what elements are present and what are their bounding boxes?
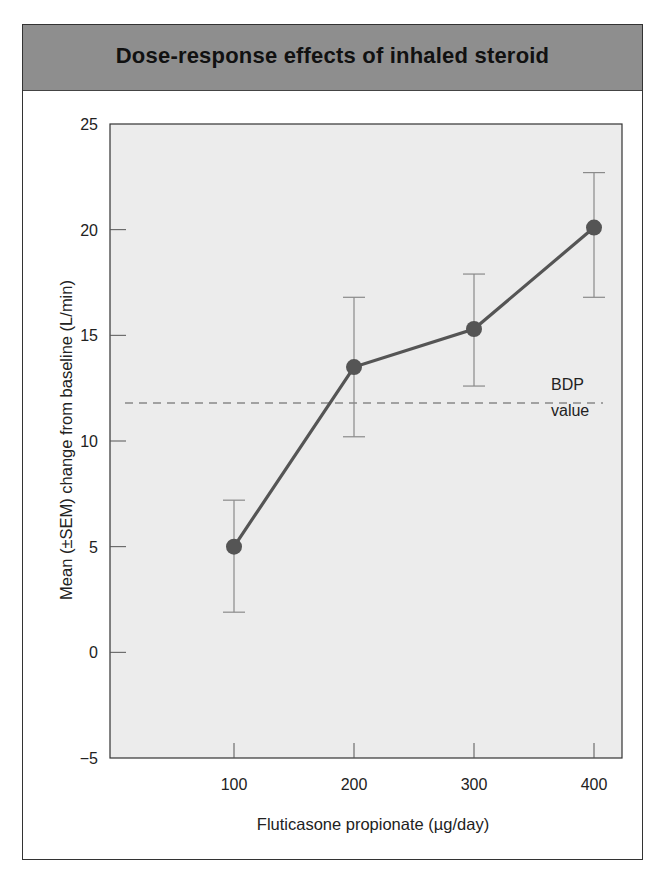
data-point-marker — [466, 321, 482, 337]
chart-canvas: −50510152025100200300400 Mean (±SEM) cha… — [0, 0, 665, 875]
plot-area: −50510152025100200300400 — [80, 116, 622, 793]
y-tick-label: 25 — [80, 116, 98, 133]
x-tick-label: 300 — [461, 776, 488, 793]
data-point-marker — [586, 220, 602, 236]
x-tick-label: 200 — [341, 776, 368, 793]
data-point-marker — [346, 359, 362, 375]
x-axis-label: Fluticasone propionate (µg/day) — [257, 815, 489, 833]
y-tick-label: 0 — [89, 644, 98, 661]
x-tick-label: 400 — [581, 776, 608, 793]
reference-label-line2: value — [551, 402, 589, 419]
y-axis-label: Mean (±SEM) change from baseline (L/min) — [57, 280, 75, 600]
x-tick-label: 100 — [221, 776, 248, 793]
y-tick-label: 5 — [89, 539, 98, 556]
y-tick-label: 15 — [80, 327, 98, 344]
plot-background — [110, 124, 622, 758]
y-tick-label: −5 — [80, 750, 98, 767]
y-tick-label: 20 — [80, 222, 98, 239]
y-tick-label: 10 — [80, 433, 98, 450]
reference-label-line1: BDP — [551, 376, 584, 393]
data-point-marker — [226, 539, 242, 555]
